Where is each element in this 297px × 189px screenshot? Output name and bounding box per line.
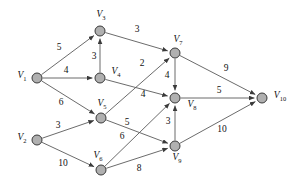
node-v4[interactable]	[95, 73, 105, 83]
node-label-v3: V3	[96, 10, 105, 21]
edge-weight-v1-v5: 6	[59, 98, 64, 108]
edge-weight-v1-v4: 4	[64, 66, 69, 76]
node-v6[interactable]	[96, 165, 106, 175]
node-label-subscript: 8	[193, 104, 196, 111]
edge-v3-to-v7	[105, 33, 167, 51]
edge-weight-v6-v8: 6	[120, 132, 125, 142]
edge-weight-v4-v3: 3	[92, 52, 97, 62]
edge-weight-v7-v10: 9	[224, 64, 229, 74]
edge-weight-v1-v3: 5	[57, 43, 62, 53]
edge-v1-to-v5	[42, 81, 95, 114]
graph-canvas	[0, 0, 297, 189]
node-label-subscript: 4	[117, 71, 120, 78]
edge-weight-v2-v5: 3	[56, 121, 61, 131]
edge-weight-v5-v7: 2	[140, 59, 145, 69]
node-label-v2: V2	[17, 133, 26, 144]
edge-weight-v4-v8: 4	[141, 90, 146, 100]
node-label-v10: V10	[274, 91, 286, 102]
edges-layer	[41, 33, 255, 169]
node-label-subscript: 5	[103, 103, 106, 110]
edge-weight-v5-v9: 5	[125, 118, 130, 128]
node-label-subscript: 7	[179, 39, 182, 46]
edge-weight-v2-v6: 10	[58, 159, 68, 169]
edge-weight-v3-v7: 3	[135, 25, 140, 35]
node-v1[interactable]	[32, 73, 42, 83]
node-label-v1: V1	[17, 71, 26, 82]
node-v7[interactable]	[170, 48, 180, 58]
edge-weight-v7-v8: 4	[165, 71, 170, 81]
edge-weight-v6-v9: 8	[137, 164, 142, 174]
edge-v6-to-v8	[105, 103, 170, 166]
node-v5[interactable]	[96, 113, 106, 123]
node-label-v7: V7	[173, 35, 182, 46]
node-label-subscript: 9	[178, 157, 181, 164]
node-v9[interactable]	[170, 141, 180, 151]
node-v8[interactable]	[170, 93, 180, 103]
node-v10[interactable]	[257, 93, 267, 103]
node-label-v4: V4	[111, 67, 120, 78]
node-v2[interactable]	[32, 135, 42, 145]
node-label-v6: V6	[93, 151, 102, 162]
node-label-v9: V9	[172, 153, 181, 164]
node-label-subscript: 1	[23, 75, 26, 82]
edge-weight-v8-v10: 5	[217, 86, 222, 96]
node-label-subscript: 2	[23, 137, 26, 144]
edge-weight-v9-v8: 3	[166, 117, 171, 127]
node-label-v8: V8	[187, 100, 196, 111]
edge-v5-to-v9	[106, 120, 168, 143]
node-v3[interactable]	[95, 26, 105, 36]
edge-v2-to-v5	[42, 120, 94, 138]
graph-diagram: 5463342531068439510V1V2V3V4V5V6V7V8V9V10	[0, 0, 297, 189]
node-label-v5: V5	[97, 99, 106, 110]
edge-v4-to-v8	[105, 79, 167, 96]
node-label-subscript: 3	[102, 14, 105, 21]
node-label-subscript: 6	[99, 155, 102, 162]
node-label-subscript: 10	[280, 95, 287, 102]
edge-weight-v9-v10: 10	[217, 125, 227, 135]
nodes-layer	[32, 26, 267, 175]
